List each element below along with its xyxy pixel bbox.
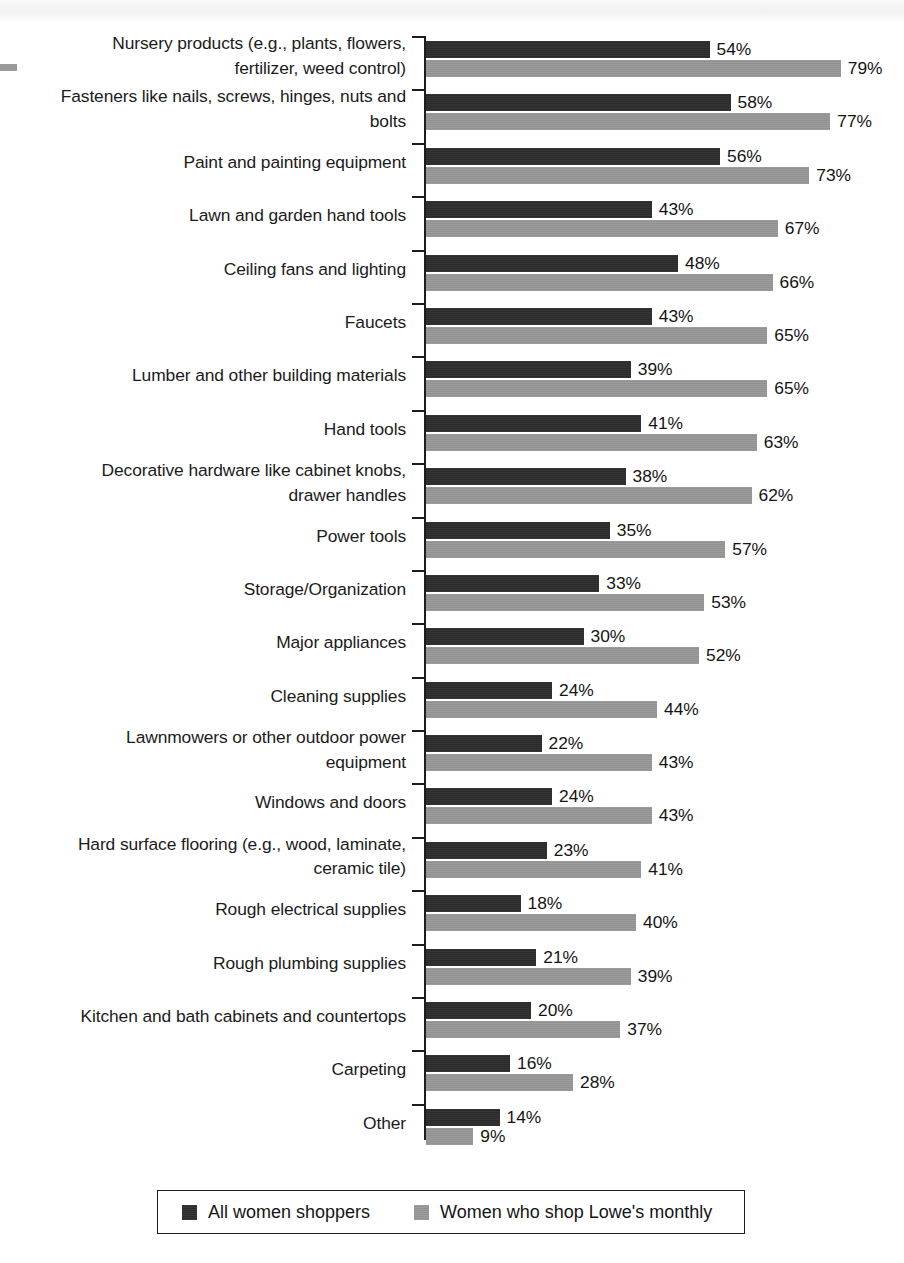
category-label: Decorative hardware like cabinet knobs,d… [10,458,406,507]
category-label: Kitchen and bath cabinets and countertop… [10,1004,406,1029]
axis-tick [412,783,425,785]
bar-value-label: 73% [816,165,851,185]
bar-dark [426,522,610,539]
bar-value-label: 43% [659,805,694,825]
chart-row: Ceiling fans and lighting48%66% [0,250,904,303]
axis-tick [412,89,425,91]
chart-row: Fasteners like nails, screws, hinges, nu… [0,89,904,142]
category-label: Rough plumbing supplies [10,951,406,976]
bar-value-label: 9% [480,1126,505,1146]
category-label-line: Hard surface flooring (e.g., wood, lamin… [10,832,406,857]
bar-gray [426,327,767,344]
bar-value-label: 39% [638,359,673,379]
category-label-line: Nursery products (e.g., plants, flowers, [10,31,406,56]
legend-swatch-gray-icon [414,1205,429,1220]
bar-value-label: 24% [559,786,594,806]
axis-tick [412,1104,425,1106]
bar-dark [426,415,641,432]
axis-tick [412,570,425,572]
bar-gray [426,968,631,985]
bar-dark [426,1055,510,1072]
axis-tick [412,623,425,625]
bar-gray [426,754,652,771]
bar-gray [426,541,725,558]
bar-dark [426,308,652,325]
chart-row: Kitchen and bath cabinets and countertop… [0,997,904,1050]
axis-tick [412,997,425,999]
bar-value-label: 52% [706,645,741,665]
bar-value-label: 22% [549,733,584,753]
legend-swatch-dark-icon [182,1205,197,1220]
category-label: Faucets [10,310,406,335]
category-label-line: Other [10,1111,406,1136]
chart-row: Major appliances30%52% [0,623,904,676]
bar-gray [426,1021,620,1038]
bar-value-label: 20% [538,1000,573,1020]
bar-dark [426,895,521,912]
category-label-line: Kitchen and bath cabinets and countertop… [10,1004,406,1029]
chart-rows: Nursery products (e.g., plants, flowers,… [0,36,904,1157]
category-label: Hand tools [10,417,406,442]
category-label: Storage/Organization [10,577,406,602]
category-label-line: Fasteners like nails, screws, hinges, nu… [10,84,406,109]
category-label-line: equipment [10,750,406,775]
bar-value-label: 43% [659,752,694,772]
axis-tick [412,730,425,732]
category-label: Rough electrical supplies [10,897,406,922]
axis-tick [412,36,425,38]
axis-tick [412,410,425,412]
bar-gray [426,274,773,291]
bar-value-label: 65% [774,325,809,345]
category-label-line: Storage/Organization [10,577,406,602]
bar-dark [426,1002,531,1019]
category-label: Cleaning supplies [10,684,406,709]
category-label-line: Lawnmowers or other outdoor power [10,725,406,750]
bar-value-label: 24% [559,680,594,700]
bar-value-label: 40% [643,912,678,932]
chart-row: Lumber and other building materials39%65… [0,356,904,409]
bar-value-label: 43% [659,199,694,219]
chart-legend: All women shoppers Women who shop Lowe's… [157,1190,745,1234]
axis-tick [412,143,425,145]
category-label: Other [10,1111,406,1136]
axis-tick [412,517,425,519]
bar-gray [426,1128,473,1145]
chart-row: Nursery products (e.g., plants, flowers,… [0,36,904,89]
chart-row: Cleaning supplies24%44% [0,677,904,730]
bar-dark [426,682,552,699]
bar-value-label: 16% [517,1053,552,1073]
bar-value-label: 33% [606,573,641,593]
bar-value-label: 21% [543,947,578,967]
bar-value-label: 41% [648,859,683,879]
bar-value-label: 18% [528,893,563,913]
bar-dark [426,468,626,485]
chart-row: Storage/Organization33%53% [0,570,904,623]
bar-dark [426,735,542,752]
chart-row: Power tools35%57% [0,517,904,570]
bar-value-label: 58% [738,92,773,112]
bar-dark [426,575,599,592]
category-label-line: bolts [10,109,406,134]
legend-label-all-women-shoppers: All women shoppers [208,1202,370,1223]
bar-value-label: 57% [732,539,767,559]
bar-value-label: 54% [717,39,752,59]
axis-tick [412,677,425,679]
bar-dark [426,255,678,272]
chart-row: Windows and doors24%43% [0,783,904,836]
category-label: Lawn and garden hand tools [10,203,406,228]
category-label-line: Hand tools [10,417,406,442]
bar-dark [426,41,710,58]
bar-value-label: 67% [785,218,820,238]
bar-value-label: 39% [638,966,673,986]
bar-dark [426,94,731,111]
category-label: Power tools [10,524,406,549]
bar-value-label: 35% [617,520,652,540]
category-label-line: Rough electrical supplies [10,897,406,922]
bar-dark [426,361,631,378]
category-label-line: Lumber and other building materials [10,363,406,388]
bar-value-label: 66% [780,272,815,292]
category-label: Ceiling fans and lighting [10,257,406,282]
category-label-line: Carpeting [10,1057,406,1082]
bar-gray [426,380,767,397]
category-label: Carpeting [10,1057,406,1082]
